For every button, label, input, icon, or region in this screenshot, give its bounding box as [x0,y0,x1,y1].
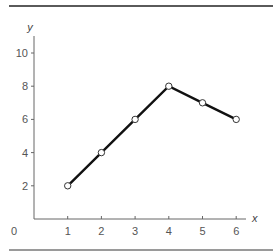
x-axis-label: x [251,212,258,224]
data-point-marker [132,116,138,122]
data-point-marker [233,116,239,122]
x-tick-label: 1 [65,225,71,237]
origin-label: 0 [11,225,17,237]
data-line [68,86,237,186]
y-tick-label: 2 [22,180,28,192]
x-tick-label: 4 [166,225,172,237]
data-point-marker [65,183,71,189]
data-point-marker [199,100,205,106]
x-tick-label: 3 [132,225,138,237]
y-axis-label: y [26,21,34,33]
data-series [65,83,240,189]
data-point-marker [166,83,172,89]
axes [34,36,246,219]
tick-labels: yx0246810123456 [11,21,258,237]
y-tick-label: 4 [22,147,28,159]
data-point-marker [98,149,104,155]
y-tick-label: 8 [22,80,28,92]
y-tick-label: 6 [22,113,28,125]
ticks [31,53,236,219]
x-tick-label: 6 [233,225,239,237]
y-tick-label: 10 [16,47,28,59]
line-chart: yx0246810123456 [0,0,273,251]
x-tick-label: 5 [199,225,205,237]
x-tick-label: 2 [98,225,104,237]
